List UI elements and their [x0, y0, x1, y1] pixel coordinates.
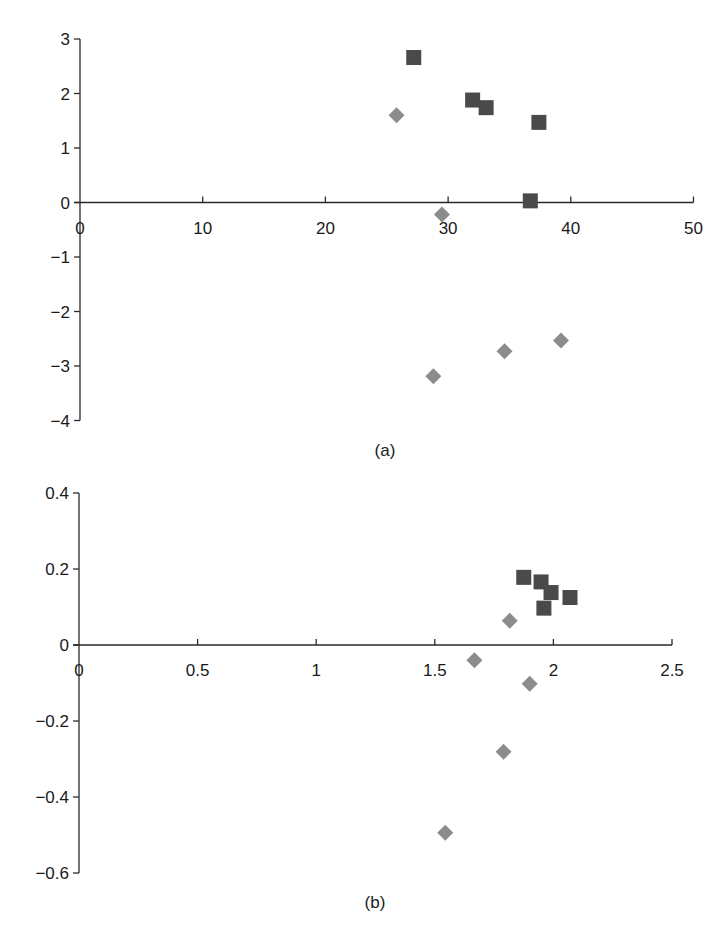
y-tick-label: −3: [51, 357, 70, 376]
chart-a-square-point: [406, 50, 421, 65]
y-tick-label: 0.2: [45, 560, 69, 579]
chart-b-square-point: [516, 570, 531, 585]
y-tick-label: 0.4: [45, 484, 69, 503]
x-tick-label: 2.5: [660, 661, 684, 680]
y-tick-label: −0.4: [35, 788, 69, 807]
x-tick-label: 40: [561, 219, 580, 238]
chart-b-square-point: [544, 585, 559, 600]
chart-b-square-point: [563, 590, 578, 605]
y-tick-label: −4: [51, 412, 70, 431]
chart-a-square-point: [465, 93, 480, 108]
x-tick-label: 0: [74, 661, 83, 680]
chart-b-square-point: [536, 601, 551, 616]
chart-b-diamond-point: [502, 613, 518, 629]
chart-b-diamond-point: [496, 744, 512, 760]
chart-b-diamond-point: [437, 825, 453, 841]
chart-a-diamond-point: [553, 332, 569, 348]
chart-a-square-point: [523, 193, 538, 208]
figure: (a) 3210−1−2−3−401020304050 (b) 0.40.20−…: [0, 0, 727, 939]
y-tick-label: 1: [61, 139, 70, 158]
y-tick-label: −0.2: [35, 712, 69, 731]
chart-a-caption: (a): [375, 441, 396, 460]
y-tick-label: 0: [61, 194, 70, 213]
x-tick-label: 0.5: [186, 661, 210, 680]
x-tick-label: 20: [316, 219, 335, 238]
x-tick-label: 1: [311, 661, 320, 680]
chart-a-square-point: [479, 100, 494, 115]
x-tick-label: 50: [684, 219, 703, 238]
y-tick-label: −2: [51, 303, 70, 322]
x-tick-label: 2: [549, 661, 558, 680]
y-tick-label: 2: [61, 85, 70, 104]
y-tick-label: −1: [51, 248, 70, 267]
x-tick-label: 1.5: [423, 661, 447, 680]
y-tick-label: 0: [60, 636, 69, 655]
x-tick-label: 0: [75, 219, 84, 238]
chart-a: (a) 3210−1−2−3−401020304050: [51, 30, 703, 460]
chart-a-diamond-point: [425, 368, 441, 384]
chart-a-diamond-point: [389, 107, 405, 123]
chart-b: (b) 0.40.20−0.2−0.4−0.600.511.522.5: [35, 484, 683, 912]
y-tick-label: −0.6: [35, 864, 69, 883]
chart-a-diamond-point: [497, 343, 513, 359]
chart-b-diamond-point: [466, 652, 482, 668]
y-tick-label: 3: [61, 30, 70, 49]
chart-b-caption: (b): [365, 893, 386, 912]
chart-b-diamond-point: [522, 676, 538, 692]
chart-a-square-point: [531, 115, 546, 130]
x-tick-label: 10: [193, 219, 212, 238]
